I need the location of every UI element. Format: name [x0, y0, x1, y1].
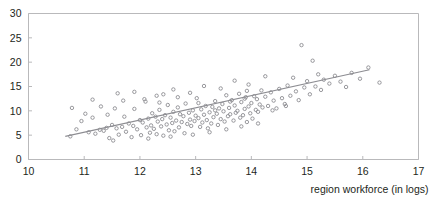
- scatter-point: [116, 92, 119, 95]
- scatter-point: [172, 88, 175, 91]
- scatter-point: [132, 124, 135, 127]
- scatter-point: [208, 111, 211, 114]
- scatter-point: [308, 93, 311, 96]
- scatter-point: [178, 113, 181, 116]
- scatter-point: [94, 132, 97, 135]
- scatter-point: [211, 105, 214, 108]
- scatter-point: [241, 114, 244, 117]
- scatter-point: [158, 101, 161, 104]
- x-tick-label: 13: [190, 165, 202, 177]
- scatter-point: [135, 128, 138, 131]
- scatter-point: [91, 116, 94, 119]
- scatter-point: [198, 125, 201, 128]
- scatter-point: [155, 94, 158, 97]
- scatter-point: [328, 82, 331, 85]
- y-tick-label: 5: [16, 129, 22, 141]
- scatter-point: [149, 124, 152, 127]
- scatter-point: [150, 112, 153, 115]
- scatter-point: [167, 129, 170, 132]
- scatter-point: [317, 73, 320, 76]
- scatter-point: [171, 121, 174, 124]
- scatter-point: [133, 90, 136, 93]
- scatter-point: [378, 81, 381, 84]
- scatter-point: [215, 112, 218, 115]
- scatter-point: [219, 87, 222, 90]
- scatter-point: [162, 134, 165, 137]
- scatter-point: [232, 119, 235, 122]
- scatter-point: [225, 94, 228, 97]
- y-tick-label: 0: [16, 153, 22, 165]
- x-axis-ticks: [29, 156, 419, 160]
- scatter-point: [247, 83, 250, 86]
- scatter-point: [272, 99, 275, 102]
- plot-frame: [29, 14, 419, 160]
- x-tick-label: 10: [23, 165, 35, 177]
- scatter-point: [210, 122, 213, 125]
- scatter-point: [169, 135, 172, 138]
- scatter-point: [183, 132, 186, 135]
- scatter-point: [208, 131, 211, 134]
- scatter-point: [233, 104, 236, 107]
- scatter-point: [188, 91, 191, 94]
- scatter-point: [217, 107, 220, 110]
- scatter-point: [158, 108, 161, 111]
- scatter-point: [75, 128, 78, 131]
- scatter-point: [115, 127, 118, 130]
- x-tick-label: 14: [246, 165, 258, 177]
- scatter-point: [124, 130, 127, 133]
- scatter-point: [266, 104, 269, 107]
- scatter-point: [314, 85, 317, 88]
- scatter-point: [260, 89, 263, 92]
- y-tick-label: 20: [10, 56, 22, 68]
- scatter-point: [148, 131, 151, 134]
- scatter-point: [182, 114, 185, 117]
- scatter-point: [99, 105, 102, 108]
- scatter-point: [139, 133, 142, 136]
- scatter-point: [177, 126, 180, 129]
- scatter-point: [344, 85, 347, 88]
- scatter-point: [300, 43, 303, 46]
- scatter-point: [180, 120, 183, 123]
- scatter-point: [221, 102, 224, 105]
- scatter-point: [233, 79, 236, 82]
- scatter-point: [205, 118, 208, 121]
- scatter-point: [223, 120, 226, 123]
- y-tick-label: 30: [10, 7, 22, 19]
- scatter-point: [261, 106, 264, 109]
- frame-border: [29, 14, 419, 160]
- scatter-point: [162, 93, 165, 96]
- scatter-point: [145, 126, 148, 129]
- scatter-point: [117, 133, 120, 136]
- scatter-point: [280, 96, 283, 99]
- scatter-point: [174, 119, 177, 122]
- scatter-point: [245, 120, 248, 123]
- scatter-point: [275, 107, 278, 110]
- x-axis-tick-labels: 1011121314151617: [23, 165, 425, 177]
- scatter-point: [225, 128, 228, 131]
- scatter-point: [102, 129, 105, 132]
- scatter-point: [197, 101, 200, 104]
- scatter-point: [294, 90, 297, 93]
- scatter-point: [188, 118, 191, 121]
- x-tick-label: 12: [134, 165, 146, 177]
- scatter-point: [141, 121, 144, 124]
- scatter-point: [189, 124, 192, 127]
- scatter-point: [166, 103, 169, 106]
- scatter-point: [197, 116, 200, 119]
- scatter-point: [243, 107, 246, 110]
- scatter-point: [213, 99, 216, 102]
- scatter-point: [201, 121, 204, 124]
- scatter-point: [176, 96, 179, 99]
- scatter-point: [339, 80, 342, 83]
- scatter-point: [237, 92, 240, 95]
- scatter-point: [213, 109, 216, 112]
- scatter-point: [191, 133, 194, 136]
- scatter-point: [258, 103, 261, 106]
- scatter-point: [202, 84, 205, 87]
- scatter-point: [256, 122, 259, 125]
- scatter-point: [311, 59, 314, 62]
- scatter-point: [358, 77, 361, 80]
- scatter-point: [187, 111, 190, 114]
- scatter-point: [108, 136, 111, 139]
- scatter-point: [176, 106, 179, 109]
